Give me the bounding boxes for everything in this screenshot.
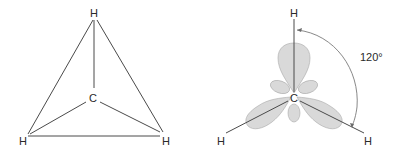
atom-h-bottom-left: H [19,135,27,147]
atom-h-bottom-left: H [217,135,225,147]
small-lobe-bottom [288,104,300,122]
atom-h-top: H [90,7,98,19]
arc-arrowhead-top-icon [297,28,302,32]
atom-h-bottom-right: H [364,135,372,147]
right-diagram: H C H H 120° [217,7,383,147]
lobe-bottom-right [297,97,342,129]
diagram-canvas: H C H H H C H H 120° [0,0,404,151]
bond-c-bottomleft [30,102,86,134]
atom-c-center: C [290,92,298,104]
edge-top-bottomright [97,20,163,132]
atom-c-center: C [89,92,97,104]
bond-c-bottomright [100,102,160,132]
left-diagram: H C H H [19,7,170,147]
atom-h-top: H [290,7,298,19]
atom-h-bottom-right: H [162,135,170,147]
angle-label: 120° [360,51,383,63]
lobe-bottom-left [246,97,291,129]
